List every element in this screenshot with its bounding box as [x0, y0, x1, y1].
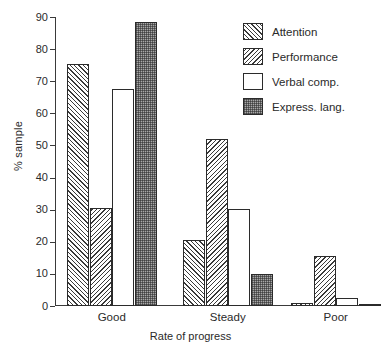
y-axis-tick-label: 70 — [22, 76, 48, 87]
bar — [206, 139, 228, 306]
chart-legend: AttentionPerformanceVerbal comp.Express.… — [243, 19, 345, 119]
bar — [112, 89, 134, 306]
legend-label: Verbal comp. — [272, 76, 339, 88]
y-axis-tick-label: 30 — [22, 204, 48, 215]
x-axis-category-label: Poor — [296, 311, 376, 323]
y-axis-tick-label: 10 — [22, 268, 48, 279]
bar — [135, 22, 157, 306]
bar — [314, 256, 336, 306]
legend-label: Express. lang. — [272, 101, 345, 113]
bar — [251, 274, 273, 306]
legend-label: Performance — [272, 51, 338, 63]
bar — [90, 208, 112, 306]
bar — [291, 303, 313, 306]
legend-item: Verbal comp. — [243, 69, 345, 94]
bar — [359, 304, 381, 306]
legend-item: Performance — [243, 44, 345, 69]
legend-swatch-icon — [243, 73, 263, 90]
legend-item: Express. lang. — [243, 94, 345, 119]
y-axis-tick-label: 20 — [22, 236, 48, 247]
legend-swatch-icon — [243, 98, 263, 115]
bar — [228, 209, 250, 306]
y-axis-tick-label: 60 — [22, 108, 48, 119]
y-axis-tick-label: 80 — [22, 44, 48, 55]
x-axis-label: Rate of progress — [0, 330, 381, 342]
x-axis-category-label: Steady — [188, 311, 268, 323]
legend-label: Attention — [272, 26, 317, 38]
bar — [183, 240, 205, 306]
y-axis-tick-label: 90 — [22, 12, 48, 23]
bar — [336, 298, 358, 306]
bar-chart: % sample Rate of progress 01020304050607… — [0, 0, 381, 352]
y-axis-tick-label: 50 — [22, 140, 48, 151]
legend-swatch-icon — [243, 23, 263, 40]
bar — [67, 64, 89, 306]
x-axis-category-label: Good — [72, 311, 152, 323]
legend-swatch-icon — [243, 48, 263, 65]
legend-item: Attention — [243, 19, 345, 44]
y-axis-tick-label: 40 — [22, 172, 48, 183]
y-axis-tick-label: 0 — [22, 301, 48, 312]
y-axis-tick-mark — [50, 306, 55, 307]
